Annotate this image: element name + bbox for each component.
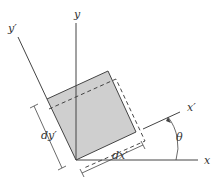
x-prime-axis-label: x′ bbox=[187, 101, 196, 114]
y-axis-label: y bbox=[73, 8, 81, 21]
dy-prime-label: dy′ bbox=[41, 129, 57, 142]
y-prime-axis-label: y′ bbox=[7, 22, 17, 35]
dx-prime-tick-left bbox=[80, 169, 84, 177]
y-prime-axis bbox=[18, 37, 47, 99]
x-axis-label: x bbox=[204, 154, 211, 167]
stress-element-diagram: y y′ x x′ θ dx′ dy′ bbox=[0, 0, 220, 188]
dx-prime-label: dx′ bbox=[112, 149, 128, 162]
theta-label: θ bbox=[176, 131, 183, 144]
dy-prime-tick-bottom bbox=[58, 166, 66, 170]
dy-prime-tick-top bbox=[30, 104, 38, 108]
x-prime-axis bbox=[143, 112, 180, 129]
diagram-canvas: y y′ x x′ θ dx′ dy′ bbox=[0, 0, 220, 188]
dx-prime-tick-right bbox=[141, 141, 145, 149]
element-square bbox=[47, 71, 136, 160]
